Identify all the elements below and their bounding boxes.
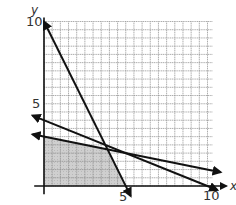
y-tick-10: 10 [26, 15, 43, 28]
x-tick-10: 10 [203, 189, 220, 202]
x-axis-label: x [230, 180, 236, 192]
grid [44, 22, 212, 187]
x-tick-5: 5 [119, 190, 127, 203]
y-tick-5: 5 [32, 97, 40, 110]
